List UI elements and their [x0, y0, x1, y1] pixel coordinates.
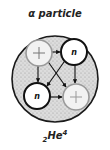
svg-text:n: n	[34, 92, 40, 101]
helium-formula: 2He4	[0, 129, 110, 144]
neutron-bottom-left: n	[24, 83, 50, 109]
proton-bottom-right	[63, 84, 89, 110]
proton-top-left	[26, 40, 52, 66]
neutron-top-right: n	[61, 39, 87, 65]
element-symbol: He	[47, 130, 62, 141]
mass-number: 4	[63, 129, 68, 137]
alpha-particle-diagram: n n	[0, 0, 110, 150]
svg-text:n: n	[71, 48, 77, 57]
